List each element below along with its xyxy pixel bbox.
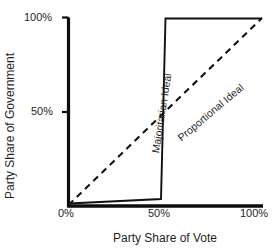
x-axis-tick-label-50: 50% [148, 207, 170, 219]
x-axis-tick-label-100: 100% [240, 207, 268, 219]
y-axis-tick-label-50: 50% [31, 105, 53, 117]
x-axis-title: Party Share of Vote [68, 231, 262, 245]
x-axis-tick-label-0: 0% [58, 207, 74, 219]
y-axis-tick-label-100: 100% [24, 11, 52, 23]
chart-figure: 100% 50% 0% 50% 100% Party Share of Gove… [0, 0, 275, 252]
chart-canvas [0, 0, 275, 252]
y-axis-title: Party Share of Government [0, 0, 20, 252]
